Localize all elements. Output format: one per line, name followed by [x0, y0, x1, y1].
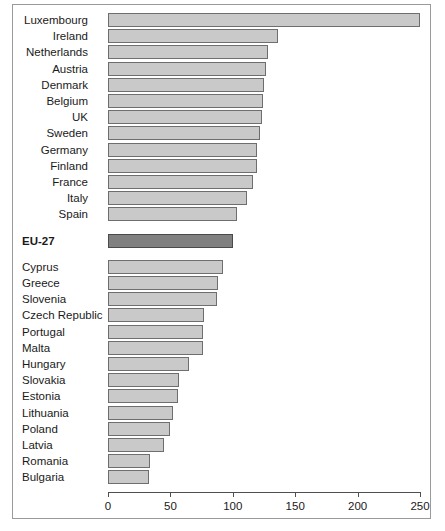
chart-row: Sweden	[0, 125, 445, 141]
chart-row: Italy	[0, 190, 445, 206]
chart-row: Austria	[0, 61, 445, 77]
category-label: Belgium	[0, 93, 88, 109]
chart-row: Cyprus	[0, 259, 445, 275]
bar	[108, 110, 262, 124]
bar	[108, 308, 204, 322]
chart-row: Finland	[0, 158, 445, 174]
chart-row: Latvia	[0, 437, 445, 453]
chart-row: Czech Republic	[0, 307, 445, 323]
bar	[108, 438, 164, 452]
bar	[108, 373, 179, 387]
chart-row: Spain	[0, 206, 445, 222]
category-label: Austria	[0, 61, 88, 77]
bar	[108, 454, 150, 468]
bar	[108, 94, 263, 108]
bar	[108, 341, 203, 355]
x-axis-tick	[170, 492, 171, 497]
chart-row: Denmark	[0, 77, 445, 93]
category-label: Denmark	[0, 77, 88, 93]
bar	[108, 126, 260, 140]
plot-area: LuxembourgIrelandNetherlandsAustriaDenma…	[0, 0, 445, 531]
category-label: Spain	[0, 206, 88, 222]
x-axis-tick-label: 250	[400, 500, 440, 512]
bar	[108, 207, 237, 221]
chart-row: Malta	[0, 340, 445, 356]
category-label: Germany	[0, 142, 88, 158]
x-axis-tick-label: 100	[213, 500, 253, 512]
x-axis-tick-label: 0	[88, 500, 128, 512]
category-label: France	[0, 174, 88, 190]
bar	[108, 470, 149, 484]
bar	[108, 62, 266, 76]
chart-row: Bulgaria	[0, 469, 445, 485]
bar	[108, 260, 223, 274]
chart-row: Romania	[0, 453, 445, 469]
category-label: Netherlands	[0, 44, 88, 60]
bar	[108, 175, 253, 189]
bar	[108, 13, 420, 27]
chart-row: Portugal	[0, 324, 445, 340]
category-label: Finland	[0, 158, 88, 174]
x-axis-tick-label: 200	[338, 500, 378, 512]
bar	[108, 406, 173, 420]
category-label: Italy	[0, 190, 88, 206]
chart-row: EU-27	[0, 233, 445, 249]
category-label: Luxembourg	[0, 12, 88, 28]
bar	[108, 422, 170, 436]
x-axis-tick	[233, 492, 234, 497]
x-axis-tick-label: 50	[150, 500, 190, 512]
x-axis-tick	[108, 492, 109, 497]
chart-row: Hungary	[0, 356, 445, 372]
category-label: Sweden	[0, 125, 88, 141]
bar	[108, 276, 218, 290]
bar	[108, 45, 268, 59]
chart-row: Slovakia	[0, 372, 445, 388]
chart-row: Ireland	[0, 28, 445, 44]
x-axis-tick-label: 150	[275, 500, 315, 512]
chart-row: Netherlands	[0, 44, 445, 60]
bar	[108, 78, 264, 92]
bar	[108, 325, 203, 339]
bar	[108, 143, 257, 157]
x-axis-tick	[420, 492, 421, 497]
x-axis-tick	[295, 492, 296, 497]
bar	[108, 191, 247, 205]
x-axis-tick	[358, 492, 359, 497]
bar	[108, 234, 233, 248]
chart-row: Lithuania	[0, 405, 445, 421]
chart-row: UK	[0, 109, 445, 125]
chart-row: Greece	[0, 275, 445, 291]
bar-chart-figure: LuxembourgIrelandNetherlandsAustriaDenma…	[0, 0, 445, 531]
bar	[108, 389, 178, 403]
chart-row: France	[0, 174, 445, 190]
chart-row: Poland	[0, 421, 445, 437]
x-axis-line	[108, 492, 421, 493]
bar	[108, 357, 189, 371]
chart-row: Belgium	[0, 93, 445, 109]
bar	[108, 29, 278, 43]
chart-row: Germany	[0, 142, 445, 158]
bar	[108, 292, 217, 306]
bar	[108, 159, 257, 173]
category-label: UK	[0, 109, 88, 125]
chart-row: Estonia	[0, 388, 445, 404]
chart-row: Luxembourg	[0, 12, 445, 28]
chart-row: Slovenia	[0, 291, 445, 307]
category-label: Ireland	[0, 28, 88, 44]
